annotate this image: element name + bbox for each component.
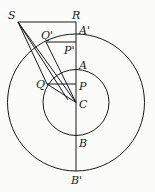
label-P: P (78, 80, 87, 93)
label-B-prime: B' (70, 174, 82, 187)
label-Q: Q (36, 78, 45, 91)
label-P-prime: P' (63, 44, 74, 57)
label-A-prime: A' (78, 24, 90, 37)
label-A: A (78, 59, 87, 72)
geometry-diagram: S R A' Q' P' A Q P C B B' (0, 0, 155, 192)
label-C: C (79, 98, 88, 111)
label-S: S (8, 9, 16, 22)
label-B: B (78, 137, 87, 150)
label-Q-prime: Q' (41, 29, 53, 42)
diagram-svg: S R A' Q' P' A Q P C B B' (0, 0, 155, 192)
label-R: R (71, 9, 80, 22)
